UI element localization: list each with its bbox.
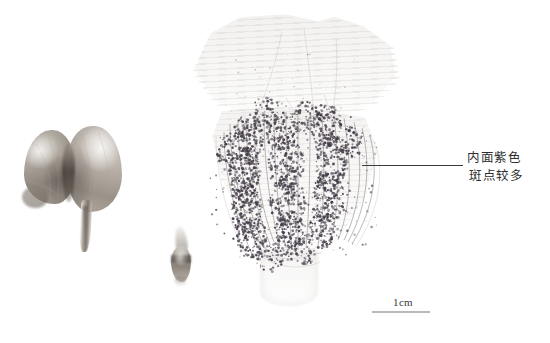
scale-bar: 1cm xyxy=(372,296,434,313)
bud-base xyxy=(175,276,186,287)
bract-vein-overlay xyxy=(22,126,126,252)
annotation-line-1: 内面紫色 xyxy=(467,149,545,167)
annotation-line-2: 斑点较多 xyxy=(467,167,545,185)
left-bract-specimen xyxy=(22,126,126,252)
perianth-purple-speckles xyxy=(186,12,406,308)
annotation-label: 内面紫色 斑点较多 xyxy=(467,149,545,185)
scale-bar-rule xyxy=(372,311,430,313)
figure-canvas: 内面紫色 斑点较多 1cm xyxy=(0,0,550,343)
annotation-leader-line xyxy=(362,165,463,166)
scale-bar-label: 1cm xyxy=(372,296,434,309)
main-perianth-specimen xyxy=(186,12,406,308)
